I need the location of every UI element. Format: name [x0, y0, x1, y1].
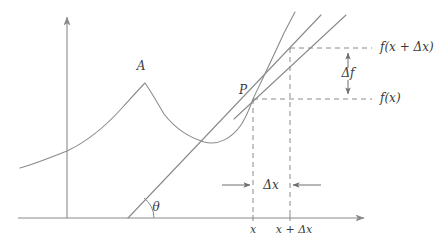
label-f-of-x-plus-delta-x: f(x + Δx): [380, 41, 434, 53]
label-x-tick: x: [250, 224, 256, 235]
label-theta-angle: θ: [152, 201, 159, 213]
label-f-of-x: f(x): [380, 92, 401, 104]
function-curve: [20, 12, 295, 168]
derivative-diagram: A P θ x x + Δx Δx Δf f(x) f(x + Δx): [0, 0, 440, 242]
label-cusp-point-a: A: [137, 60, 146, 72]
label-delta-x: Δx: [263, 179, 278, 191]
label-delta-f: Δf: [341, 67, 354, 79]
diagram-canvas: [0, 0, 440, 242]
label-tangent-point-p: P: [239, 84, 247, 96]
label-x-plus-delta-x-tick: x + Δx: [276, 224, 313, 235]
tangent-line: [128, 15, 321, 218]
